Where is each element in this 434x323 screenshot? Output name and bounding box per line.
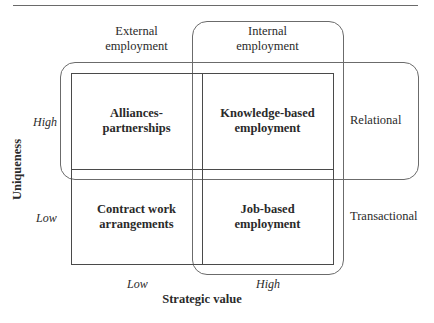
- external-employment-label: External employment: [71, 24, 202, 54]
- cell-bottom-right-line1: Job-based: [235, 202, 301, 217]
- cell-bottom-right-line2: employment: [235, 217, 301, 232]
- y-axis-title: Uniqueness: [10, 135, 25, 205]
- external-employment-line1: External: [71, 24, 202, 39]
- x-axis-low-label: Low: [127, 277, 148, 291]
- cell-top-left-line2: partnerships: [102, 121, 170, 136]
- internal-employment-line1: Internal: [202, 24, 333, 39]
- relational-label: Relational: [350, 113, 401, 128]
- cell-knowledge-based-employment: Knowledge-based employment: [202, 73, 333, 169]
- cell-top-left-line1: Alliances-: [102, 106, 170, 121]
- x-axis-title: Strategic value: [152, 292, 252, 307]
- cell-top-right-line1: Knowledge-based: [220, 106, 314, 121]
- x-axis-high-label: High: [256, 277, 280, 291]
- cell-bottom-left-line2: arrangements: [97, 217, 176, 232]
- transactional-label: Transactional: [350, 209, 418, 224]
- cell-job-based-employment: Job-based employment: [202, 169, 333, 264]
- cell-contract-work-arrangements: Contract work arrangements: [71, 169, 202, 264]
- cell-bottom-left-line1: Contract work: [97, 202, 176, 217]
- cell-alliances-partnerships: Alliances- partnerships: [71, 73, 202, 169]
- internal-employment-line2: employment: [202, 39, 333, 54]
- y-axis-low-label: Low: [36, 211, 57, 225]
- header-rule: [13, 5, 418, 6]
- cell-top-right-line2: employment: [220, 121, 314, 136]
- y-axis-high-label: High: [33, 115, 57, 129]
- internal-employment-label: Internal employment: [202, 24, 333, 54]
- external-employment-line2: employment: [71, 39, 202, 54]
